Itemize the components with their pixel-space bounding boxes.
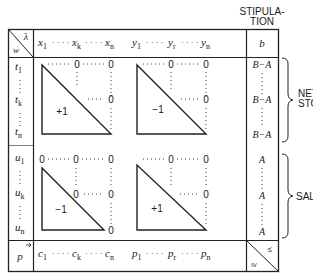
bottom-ellipsis: · · · · (146, 249, 163, 258)
bottom-ellipsis: · · · · (85, 249, 102, 258)
sales-brace-icon (282, 154, 293, 238)
bottom-pr: pr (167, 247, 177, 262)
header-ellipsis: · · · · (52, 38, 69, 47)
bottom-ck: ck (72, 247, 81, 262)
zero: 0 (74, 59, 80, 70)
corner-iv: IV (251, 262, 257, 268)
arrow-icon (26, 243, 31, 247)
header-ellipsis: · · · · (146, 38, 163, 47)
row-labels-t: t1 tk tn (15, 60, 22, 140)
header-x-variables: x1 · · · · xk · · · · xn (37, 36, 114, 51)
zero: 0 (39, 154, 45, 165)
stipulation-uk: A (258, 190, 266, 201)
table-frame (9, 30, 279, 272)
stipulation-header-line2: TION (250, 16, 274, 27)
zero: 0 (203, 189, 209, 200)
bottom-cn: cn (105, 247, 114, 262)
stipulation-tn: B−A (253, 129, 273, 140)
header-ellipsis: · · · · (181, 38, 198, 47)
bottom-row-label-p: p (16, 250, 23, 262)
block-top-right: 0 0 0 −1 (137, 59, 209, 134)
corner-w: w (13, 45, 19, 55)
block-top-left: 0 0 0 +1 (42, 59, 114, 134)
net-storage-brace-icon (282, 58, 293, 142)
zero: 0 (108, 225, 114, 236)
zero: 0 (168, 154, 174, 165)
row-labels-u: u1 uk un (15, 151, 25, 236)
zero: 0 (108, 154, 114, 165)
row-label-t1: t1 (15, 60, 22, 75)
zero: 0 (203, 94, 209, 105)
sales-label: SALES (296, 191, 313, 202)
bottom-p1: p1 (131, 247, 142, 262)
block-bottom-left: 0 0 0 0 0 0 −1 (39, 154, 114, 236)
header-yn: yn (200, 36, 210, 51)
stipulation-un: A (258, 226, 266, 237)
zero: 0 (108, 189, 114, 200)
bottom-p-variables: p1 · · · · pr · · · · pn (131, 247, 211, 262)
header-stipulation-b: b (259, 37, 265, 49)
header-xk: xk (71, 36, 81, 51)
triangle-label: −1 (55, 204, 67, 215)
net-storage-label-line2: STORAGE (298, 98, 313, 109)
triangle-label: +1 (56, 106, 68, 117)
row-label-un: un (15, 221, 25, 236)
row-label-tk: tk (15, 93, 22, 108)
lower-triangle (137, 165, 206, 230)
header-yr: yr (167, 36, 176, 51)
bottom-ellipsis: · · · · (181, 249, 198, 258)
row-label-tn: tn (15, 125, 22, 140)
stipulation-values-t: B−A B−A B−A (253, 59, 273, 140)
stipulation-tk: B−A (253, 94, 273, 105)
bottom-pn: pn (200, 247, 211, 262)
stipulation-u1: A (258, 154, 266, 165)
header-ellipsis: · · · · (85, 38, 102, 47)
corner-leq: ≤ (268, 245, 273, 254)
zero: 0 (73, 154, 79, 165)
header-y1: y1 (131, 36, 141, 51)
block-bottom-right: 0 0 0 +1 (137, 154, 209, 230)
zero: 0 (73, 189, 79, 200)
zero: 0 (108, 94, 114, 105)
linear-program-tableau: STIPULA- TION λ w x1 · · · · xk · · · · … (0, 0, 313, 276)
bottom-c1: c1 (38, 247, 47, 262)
corner-lambda: λ (23, 31, 29, 42)
zero: 0 (108, 59, 114, 70)
bottom-ellipsis: · · · · (52, 249, 69, 258)
triangle-label: +1 (151, 203, 163, 214)
header-xn: xn (104, 36, 114, 51)
stipulation-t1: B−A (253, 59, 273, 70)
stipulation-values-u: A A A (258, 154, 266, 237)
header-y-variables: y1 · · · · yr · · · · yn (131, 36, 210, 51)
header-x1: x1 (37, 36, 47, 51)
triangle-label: −1 (152, 104, 164, 115)
row-label-uk: uk (15, 186, 25, 201)
zero: 0 (203, 154, 209, 165)
bottom-c-variables: c1 · · · · ck · · · · cn (38, 247, 114, 262)
zero: 0 (203, 59, 209, 70)
zero: 0 (168, 59, 174, 70)
lower-triangle (137, 65, 206, 134)
row-label-u1: u1 (15, 151, 25, 166)
